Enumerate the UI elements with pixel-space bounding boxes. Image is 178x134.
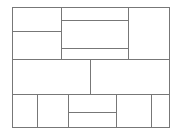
panel-bottom-col-5 bbox=[151, 94, 170, 128]
panel-top-right bbox=[128, 7, 170, 60]
layout-diagram bbox=[0, 0, 178, 134]
panel-bottom-col-4 bbox=[116, 94, 152, 128]
panel-middle-right bbox=[90, 59, 170, 95]
panel-top-center-middle bbox=[61, 20, 129, 49]
panel-top-left-lower bbox=[12, 31, 62, 60]
panel-bottom-col-3-upper bbox=[68, 94, 117, 113]
panel-middle-left bbox=[12, 59, 91, 95]
panel-bottom-col-1 bbox=[12, 94, 38, 128]
panel-bottom-col-2 bbox=[37, 94, 69, 128]
panel-top-center-upper bbox=[61, 7, 129, 21]
panel-top-left-upper bbox=[12, 7, 62, 32]
panel-bottom-col-3-lower bbox=[68, 112, 117, 128]
